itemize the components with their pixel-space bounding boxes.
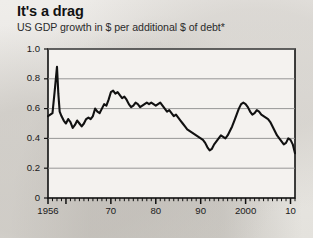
x-axis-tick-label: 1956 [31,206,65,216]
x-axis-tick-label: 2000 [229,206,263,216]
y-axis-tick-label: 0.4 [10,133,40,143]
y-axis-tick-label: 0.8 [10,73,40,83]
x-axis-tick-label: 70 [94,206,128,216]
y-axis-tick-label: 0.2 [10,163,40,173]
x-axis-tick-label: 10 [274,206,308,216]
x-axis-tick-label: 80 [139,206,173,216]
chart-plot-area: 00.20.40.60.81.01956708090200010 [0,0,313,238]
y-axis-tick-label: 1.0 [10,44,40,54]
x-axis-tick-label: 90 [184,206,218,216]
y-axis-tick-label: 0 [10,193,40,203]
line-chart-svg [0,0,313,238]
y-axis-tick-label: 0.6 [10,103,40,113]
